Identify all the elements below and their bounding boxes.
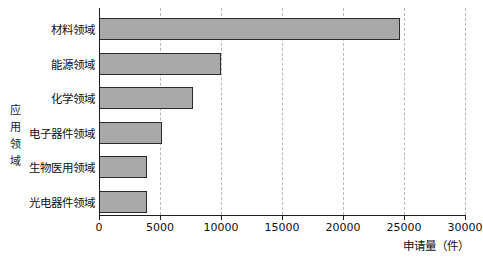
y-axis-line — [99, 8, 100, 216]
bar — [99, 53, 221, 75]
x-axis-tick-label: 5000 — [146, 221, 174, 234]
x-axis-tick — [160, 215, 161, 220]
x-axis-tick-label: 30000 — [448, 221, 483, 234]
category-label: 材料领域 — [0, 21, 95, 37]
x-axis-tick — [343, 215, 344, 220]
x-axis-tick — [282, 215, 283, 220]
category-label: 能源领域 — [0, 56, 95, 72]
x-axis-tick-label: 15000 — [265, 221, 300, 234]
category-label: 化学领域 — [0, 90, 95, 106]
x-axis-tick — [221, 215, 222, 220]
x-axis-tick-label: 10000 — [204, 221, 239, 234]
category-label: 生物医用领域 — [0, 159, 95, 175]
category-label-list: 材料领域能源领域化学领域电子器件领域生物医用领域光电器件领域 — [0, 0, 95, 220]
x-axis-tick — [404, 215, 405, 220]
x-axis-tick — [465, 215, 466, 220]
bar — [99, 156, 147, 178]
bar — [99, 18, 400, 40]
x-axis-tick-label: 0 — [96, 221, 103, 234]
gridline — [465, 8, 466, 215]
category-label: 光电器件领域 — [0, 194, 95, 210]
x-axis-tick — [99, 215, 100, 220]
x-axis-tick-label: 20000 — [326, 221, 361, 234]
x-axis-tick-label: 25000 — [387, 221, 422, 234]
x-axis-title: 申请量（件） — [0, 237, 469, 253]
bar — [99, 87, 193, 109]
bar — [99, 122, 162, 144]
bar — [99, 191, 147, 213]
gridline — [404, 8, 405, 215]
category-label: 电子器件领域 — [0, 125, 95, 141]
plot-area — [99, 8, 465, 215]
